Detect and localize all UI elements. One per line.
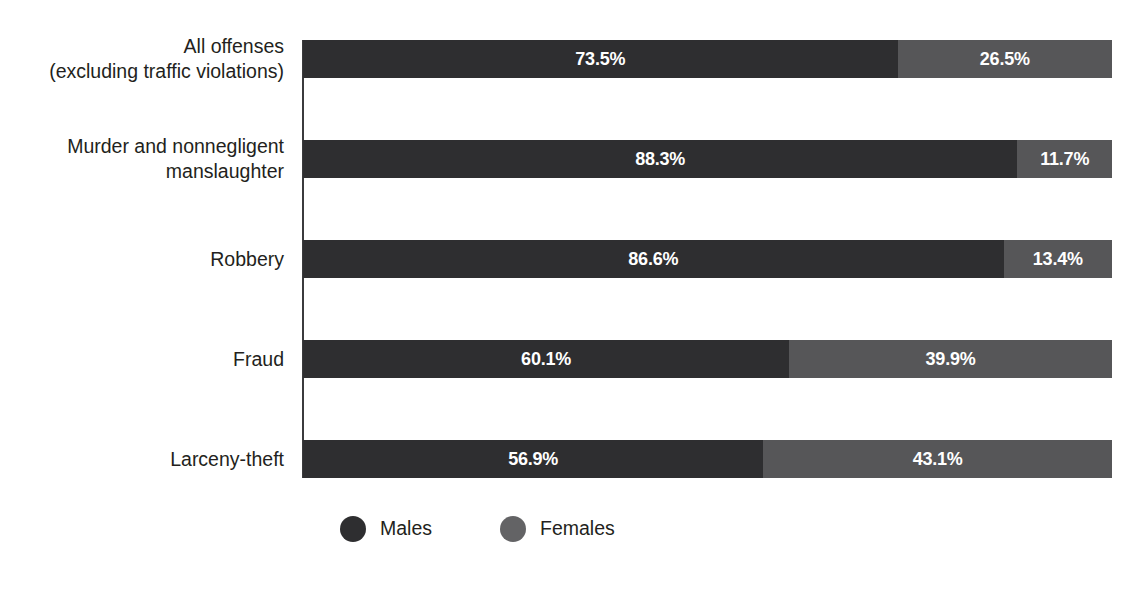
bar-segment-females[interactable]: 13.4% <box>1004 240 1112 278</box>
legend-item-males[interactable]: Males <box>340 512 432 546</box>
bar-value-males: 73.5% <box>575 50 625 68</box>
bar-segment-females[interactable]: 43.1% <box>763 440 1112 478</box>
bar-track: 56.9% 43.1% <box>303 440 1112 478</box>
bar-track: 88.3% 11.7% <box>303 140 1112 178</box>
category-label-murder-manslaughter: Murder and nonnegligent manslaughter <box>0 134 284 184</box>
stacked-bar-chart: All offenses (excluding traffic violatio… <box>0 0 1139 590</box>
bar-track: 73.5% 26.5% <box>303 40 1112 78</box>
bar-row: Larceny-theft 56.9% 43.1% <box>0 440 1139 480</box>
bar-track: 60.1% 39.9% <box>303 340 1112 378</box>
bar-value-females: 11.7% <box>1040 150 1089 168</box>
bar-row: Murder and nonnegligent manslaughter 88.… <box>0 140 1139 180</box>
bar-value-males: 60.1% <box>521 350 571 368</box>
bar-segment-females[interactable]: 39.9% <box>789 340 1112 378</box>
bar-segment-males[interactable]: 86.6% <box>303 240 1004 278</box>
bar-value-females: 13.4% <box>1033 250 1083 268</box>
bar-row: Fraud 60.1% 39.9% <box>0 340 1139 380</box>
category-label-fraud: Fraud <box>0 347 284 372</box>
bar-value-females: 43.1% <box>913 450 963 468</box>
bar-value-males: 86.6% <box>628 250 678 268</box>
bar-value-males: 56.9% <box>508 450 558 468</box>
bar-segment-females[interactable]: 26.5% <box>898 40 1112 78</box>
bar-segment-males[interactable]: 73.5% <box>303 40 898 78</box>
bar-track: 86.6% 13.4% <box>303 240 1112 278</box>
category-label-all-offenses: All offenses (excluding traffic violatio… <box>0 34 284 84</box>
legend-label-females: Females <box>540 519 615 539</box>
bar-row: Robbery 86.6% 13.4% <box>0 240 1139 280</box>
category-label-robbery: Robbery <box>0 247 284 272</box>
chart-legend: Males Females <box>0 512 1139 552</box>
legend-swatch-males-icon <box>340 516 366 542</box>
legend-swatch-females-icon <box>500 516 526 542</box>
bar-row: All offenses (excluding traffic violatio… <box>0 40 1139 80</box>
bar-value-males: 88.3% <box>635 150 685 168</box>
legend-label-males: Males <box>380 519 432 539</box>
bar-value-females: 39.9% <box>926 350 976 368</box>
bar-segment-males[interactable]: 88.3% <box>303 140 1017 178</box>
plot-area: All offenses (excluding traffic violatio… <box>0 0 1139 500</box>
bar-segment-males[interactable]: 60.1% <box>303 340 789 378</box>
legend-item-females[interactable]: Females <box>500 512 615 546</box>
category-label-larceny-theft: Larceny-theft <box>0 447 284 472</box>
bar-value-females: 26.5% <box>980 50 1030 68</box>
bar-segment-males[interactable]: 56.9% <box>303 440 763 478</box>
bar-segment-females[interactable]: 11.7% <box>1017 140 1112 178</box>
